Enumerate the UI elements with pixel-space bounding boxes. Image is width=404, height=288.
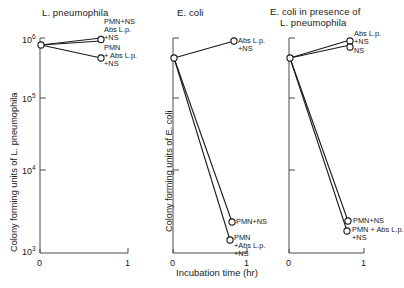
data-point-pmn-ns: [345, 218, 351, 224]
series-label-abslp-ns: Abs L.p. +NS: [238, 37, 265, 53]
series-label-pmn-ns: PMN+NS: [353, 217, 384, 225]
series-line-pmn-abslp-ns: [174, 58, 230, 240]
x-axis-label: Incubation time (hr): [176, 267, 258, 278]
series-label-pmn-abslp-ns: PMN + Abs L.p. +NS: [352, 226, 404, 242]
data-point-abslp-ns: [231, 38, 237, 44]
series-line-pmn-abslp-ns: [290, 58, 347, 231]
data-point-pmn-abslp-ns: [344, 228, 350, 234]
chart-panel-e-coli-with-l-pneumophila: E. coli in presence of L. pneumophila 0 …: [268, 0, 389, 288]
series-line-abslp-ns: [174, 41, 234, 58]
series-label-pmn-ns: PMN+NS: [236, 218, 267, 226]
series-label-abslp-ns: Abs L.p. +NS: [354, 30, 381, 46]
series-line-pmn-ns: [174, 58, 232, 222]
data-point-ns: [347, 44, 353, 50]
data-point-origin: [287, 55, 293, 61]
series-line-pmn-ns: [290, 58, 348, 221]
chart-panel-l-pneumophila: L. pneumophila Colony forming units of L…: [0, 0, 150, 288]
series-line-ns: [290, 45, 350, 58]
data-point-pmn-ns: [229, 219, 235, 225]
series-label-abslp-ns: Abs L.p. +NS: [104, 26, 131, 42]
series-label-ns: NS: [354, 47, 364, 55]
series-label-pmn-abslp-ns: PMN +Abs L.p. +NS: [234, 234, 265, 258]
series-line-abslp-ns: [290, 40, 350, 58]
data-point-origin: [38, 42, 44, 48]
series-line-pmn-abslp-ns: [41, 45, 101, 58]
series-label-pmn-abslp-ns: PMN + Abs L.p. +NS: [104, 44, 137, 68]
data-point-abslp-ns: [347, 38, 353, 44]
data-point-pmn-abslp-ns: [227, 237, 233, 243]
data-point-origin: [171, 55, 177, 61]
chart-panel-e-coli: E. coli Colony forming units of E. coli …: [150, 0, 268, 288]
